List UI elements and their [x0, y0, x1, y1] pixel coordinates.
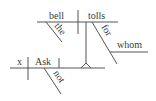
- sentence-diagram: bell tolls the for whom x Ask not: [0, 0, 156, 101]
- word-the: the: [52, 20, 69, 37]
- word-for: for: [99, 22, 115, 38]
- word-whom: whom: [117, 39, 142, 50]
- word-tolls: tolls: [88, 10, 105, 21]
- word-bell: bell: [49, 10, 64, 21]
- word-x: x: [17, 56, 22, 67]
- word-ask: Ask: [35, 56, 51, 67]
